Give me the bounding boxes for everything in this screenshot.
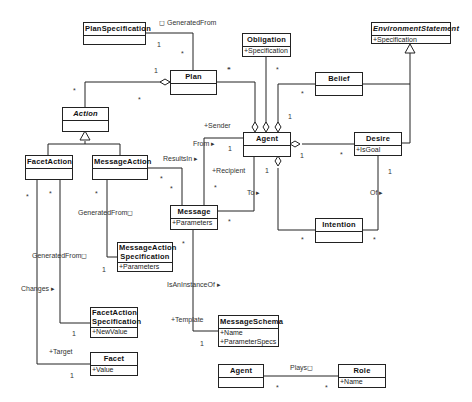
multiplicity: *	[73, 87, 76, 95]
multiplicity: *	[340, 151, 343, 159]
class-role[interactable]: Role +Name	[338, 364, 386, 388]
class-name: Facet	[91, 353, 137, 366]
class-name: EnvironmentStatement	[372, 23, 450, 36]
class-attribute: +Name	[339, 378, 385, 387]
class-agent[interactable]: Agent	[243, 132, 291, 157]
class-messageaction[interactable]: MessageAction	[92, 155, 148, 180]
label-recipient: +Recipient	[212, 167, 245, 175]
label-results-in: ResultsIn ▸	[163, 155, 198, 163]
multiplicity: *	[182, 240, 185, 248]
class-desire[interactable]: Desire +IsGoal	[354, 132, 402, 156]
aggregation-diamond	[252, 122, 258, 132]
aggregation-diamond	[290, 141, 300, 147]
multiplicity: *	[160, 175, 163, 183]
class-facet[interactable]: Facet +Value	[90, 352, 138, 376]
label-template: +Template	[171, 316, 204, 324]
multiplicity: *	[181, 50, 184, 58]
label-to: To ▸	[247, 189, 260, 197]
class-messageschema[interactable]: MessageSchema +Name +ParameterSpecs	[218, 315, 279, 347]
class-name: PlanSpecification	[84, 23, 145, 36]
multiplicity: *	[325, 384, 328, 392]
multiplicity: *	[373, 236, 376, 244]
class-name: MessageAction	[93, 156, 147, 169]
multiplicity: *	[170, 185, 173, 193]
generalization-arrow	[405, 44, 415, 53]
class-facetactionspecification[interactable]: FacetAction Specification +NewValue	[90, 307, 138, 338]
multiplicity: 1	[72, 330, 76, 338]
class-intention[interactable]: Intention	[315, 218, 363, 243]
multiplicity: *	[228, 66, 231, 74]
multiplicity: 1	[102, 266, 106, 274]
class-agent-role-player[interactable]: Agent	[218, 364, 264, 388]
multiplicity: 1	[70, 372, 74, 380]
class-attribute: +Specification	[372, 36, 450, 45]
class-name: FacetAction Specification	[91, 308, 137, 328]
class-name-line: Specification	[92, 318, 136, 327]
class-obligation[interactable]: Obligation +Specification	[242, 33, 291, 57]
aggregation-diamond	[275, 156, 281, 166]
multiplicity: *	[301, 90, 304, 98]
multiplicity: *	[301, 236, 304, 244]
multiplicity: *	[138, 96, 141, 104]
multiplicity: 1	[388, 168, 392, 176]
label-of: Of ▸	[370, 189, 383, 197]
class-environmentstatement[interactable]: EnvironmentStatement +Specification	[371, 22, 451, 44]
multiplicity: *	[26, 193, 29, 201]
class-attribute: +Specification	[243, 47, 290, 56]
class-name-line: Specification	[119, 253, 171, 262]
class-plan[interactable]: Plan	[170, 70, 217, 95]
class-name: Role	[339, 365, 385, 378]
class-name: FacetAction	[26, 156, 72, 169]
class-attribute: +Name	[219, 329, 278, 338]
multiplicity: *	[95, 190, 98, 198]
class-attribute: +NewValue	[91, 328, 137, 337]
multiplicity: 1	[265, 167, 269, 175]
class-name: Agent	[244, 133, 290, 146]
class-name: Agent	[219, 365, 263, 378]
aggregation-diamond	[160, 79, 170, 85]
multiplicity: 1	[157, 41, 161, 49]
label-changes: Changes ▸	[21, 285, 55, 293]
label-generated-from: ◻ GeneratedFrom	[159, 19, 216, 27]
class-attribute: +IsGoal	[355, 146, 401, 155]
label-plays: Plays◻	[290, 364, 313, 372]
class-facetaction[interactable]: FacetAction	[25, 155, 73, 180]
class-name: Obligation	[243, 34, 290, 47]
multiplicity: 1	[288, 113, 292, 121]
label-sender: +Sender	[204, 122, 231, 130]
class-name: Intention	[316, 219, 362, 232]
multiplicity: *	[276, 384, 279, 392]
class-name: Action	[63, 108, 108, 121]
uml-diagram-canvas: PlanSpecification Plan Obligation +Speci…	[0, 0, 472, 402]
class-messageactionspecification[interactable]: MessageAction Specification +Parameters	[117, 242, 173, 272]
label-is-an-instance-of: IsAnInstanceOf ▸	[167, 281, 221, 289]
multiplicity: 1	[228, 145, 232, 153]
class-planspecification[interactable]: PlanSpecification	[83, 22, 146, 45]
class-message[interactable]: Message +Parameters	[170, 205, 218, 230]
class-name: Belief	[316, 73, 362, 86]
class-name: Desire	[355, 133, 401, 146]
class-name: Message	[171, 206, 217, 219]
multiplicity: 1	[200, 340, 204, 348]
label-target: +Target	[49, 348, 73, 356]
class-action[interactable]: Action	[62, 107, 109, 132]
class-name: MessageSchema	[219, 316, 278, 329]
label-generated-from-msg: GeneratedFrom◻	[78, 209, 133, 217]
class-name: MessageAction Specification	[118, 243, 172, 263]
label-from: From ▸	[193, 140, 215, 148]
multiplicity: *	[49, 190, 52, 198]
aggregation-diamond	[275, 122, 281, 132]
class-belief[interactable]: Belief	[315, 72, 363, 96]
class-attribute: +ParameterSpecs	[219, 338, 278, 347]
label-generated-from-facet: GeneratedFrom◻	[32, 252, 87, 260]
class-attribute: +Parameters	[118, 263, 172, 272]
multiplicity: *	[228, 218, 231, 226]
multiplicity: 1	[300, 152, 304, 160]
aggregation-diamond	[263, 122, 269, 132]
generalization-arrow	[80, 131, 90, 140]
class-attribute: +Value	[91, 366, 137, 375]
multiplicity: 1	[154, 67, 158, 75]
multiplicity: *	[214, 184, 217, 192]
multiplicity: *	[276, 66, 279, 74]
class-attribute: +Parameters	[171, 219, 217, 228]
